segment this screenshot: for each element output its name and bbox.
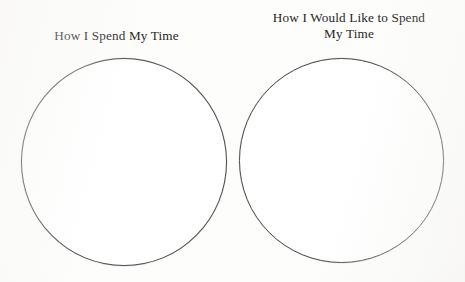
- panel-title-desired: How I Would Like to Spend My Time: [233, 10, 465, 41]
- panel-current-time: How I Spend My Time: [0, 0, 233, 282]
- panel-title-current: How I Spend My Time: [0, 28, 233, 44]
- panel-desired-time: How I Would Like to Spend My Time: [233, 0, 465, 282]
- empty-pie-chart-circle-desired[interactable]: [239, 58, 444, 263]
- worksheet-page: How I Spend My Time How I Would Like to …: [0, 0, 465, 282]
- empty-pie-chart-circle-current[interactable]: [21, 58, 227, 266]
